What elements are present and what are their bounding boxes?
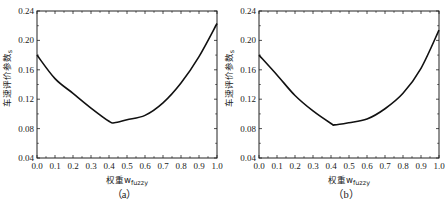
x-axis: 0.00.10.20.30.40.50.60.70.80.91.0	[31, 11, 223, 171]
x-tick-label: 0.6	[361, 161, 373, 171]
y-tick-label: 0.20	[18, 35, 34, 45]
x-tick-label: 0.5	[121, 161, 133, 171]
y-tick-label: 0.20	[240, 35, 256, 45]
x-tick-label: 0.3	[307, 161, 319, 171]
x-tick-label: 0.3	[85, 161, 97, 171]
y-tick-label: 0.12	[18, 94, 34, 104]
x-tick-label: 1.0	[433, 161, 445, 171]
x-tick-label: 0.8	[175, 161, 187, 171]
x-axis: 0.00.10.20.30.40.50.60.70.80.91.0	[253, 11, 445, 171]
x-tick-label: 0.9	[193, 161, 205, 171]
y-tick-label: 0.16	[240, 65, 256, 75]
y-axis-title: 车速评价参数s	[2, 49, 14, 107]
y-tick-label: 0.12	[240, 94, 256, 104]
y-tick-label: 0.04	[18, 153, 34, 163]
y-tick-label: 0.08	[18, 124, 34, 134]
y-axis: 0.040.080.120.160.200.24	[240, 6, 439, 163]
panel-label: （a）	[112, 189, 137, 200]
x-tick-label: 0.4	[103, 161, 115, 171]
x-tick-label: 0.1	[271, 161, 282, 171]
y-tick-label: 0.24	[240, 6, 256, 16]
x-tick-label: 0.4	[325, 161, 337, 171]
x-axis-title: 权重wfuzzy	[328, 175, 370, 187]
x-tick-label: 0.7	[157, 161, 169, 171]
chart-panel-a: 0.00.10.20.30.40.50.60.70.80.91.0 0.040.…	[2, 6, 223, 200]
y-tick-label: 0.24	[18, 6, 34, 16]
x-tick-label: 1.0	[211, 161, 223, 171]
chart-panel-b: 0.00.10.20.30.40.50.60.70.80.91.0 0.040.…	[224, 6, 445, 200]
panel-label: （b）	[333, 189, 358, 200]
x-tick-label: 0.1	[49, 161, 60, 171]
x-tick-label: 0.8	[397, 161, 409, 171]
x-tick-label: 0.2	[67, 161, 78, 171]
x-tick-label: 0.7	[379, 161, 391, 171]
data-line	[259, 30, 439, 125]
figure: 0.00.10.20.30.40.50.60.70.80.91.0 0.040.…	[0, 0, 448, 204]
plot-frame	[37, 11, 217, 158]
x-tick-label: 0.5	[343, 161, 355, 171]
y-axis: 0.040.080.120.160.200.24	[18, 6, 217, 163]
x-tick-label: 0.6	[139, 161, 151, 171]
x-tick-label: 0.2	[289, 161, 300, 171]
data-line	[37, 24, 217, 124]
x-tick-label: 0.9	[415, 161, 427, 171]
x-axis-title: 权重wfuzzy	[106, 175, 148, 187]
y-axis-title: 车速评价参数s	[224, 49, 236, 107]
y-tick-label: 0.16	[18, 65, 34, 75]
y-tick-label: 0.04	[240, 153, 256, 163]
y-tick-label: 0.08	[240, 124, 256, 134]
